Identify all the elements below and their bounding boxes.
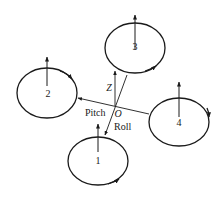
- rotor-2-spin-arrow-icon: [60, 71, 72, 79]
- z-axis-label: Z: [106, 82, 112, 93]
- rotor-1: 1: [68, 124, 128, 185]
- rotor-1-label: 1: [96, 155, 101, 166]
- rotor-2-label: 2: [46, 88, 51, 99]
- rotor-3-spin-arrow-icon: [145, 66, 156, 71]
- body-axes: Z O Pitch Roll: [78, 71, 149, 135]
- rotor-2: 2: [17, 57, 77, 118]
- rotor-1-spin-arrow-icon: [108, 179, 119, 184]
- rotor-3-label: 3: [133, 41, 138, 52]
- roll-axis-label: Roll: [114, 121, 131, 132]
- origin-label: O: [114, 108, 121, 119]
- pitch-axis-label: Pitch: [85, 107, 106, 118]
- rotor-4-label: 4: [177, 117, 182, 128]
- rotor-3: 3: [105, 15, 165, 73]
- rotor-4: 4: [149, 82, 209, 146]
- quadrotor-diagram: 3 2 4 1 Z O Pitch Roll: [0, 0, 223, 198]
